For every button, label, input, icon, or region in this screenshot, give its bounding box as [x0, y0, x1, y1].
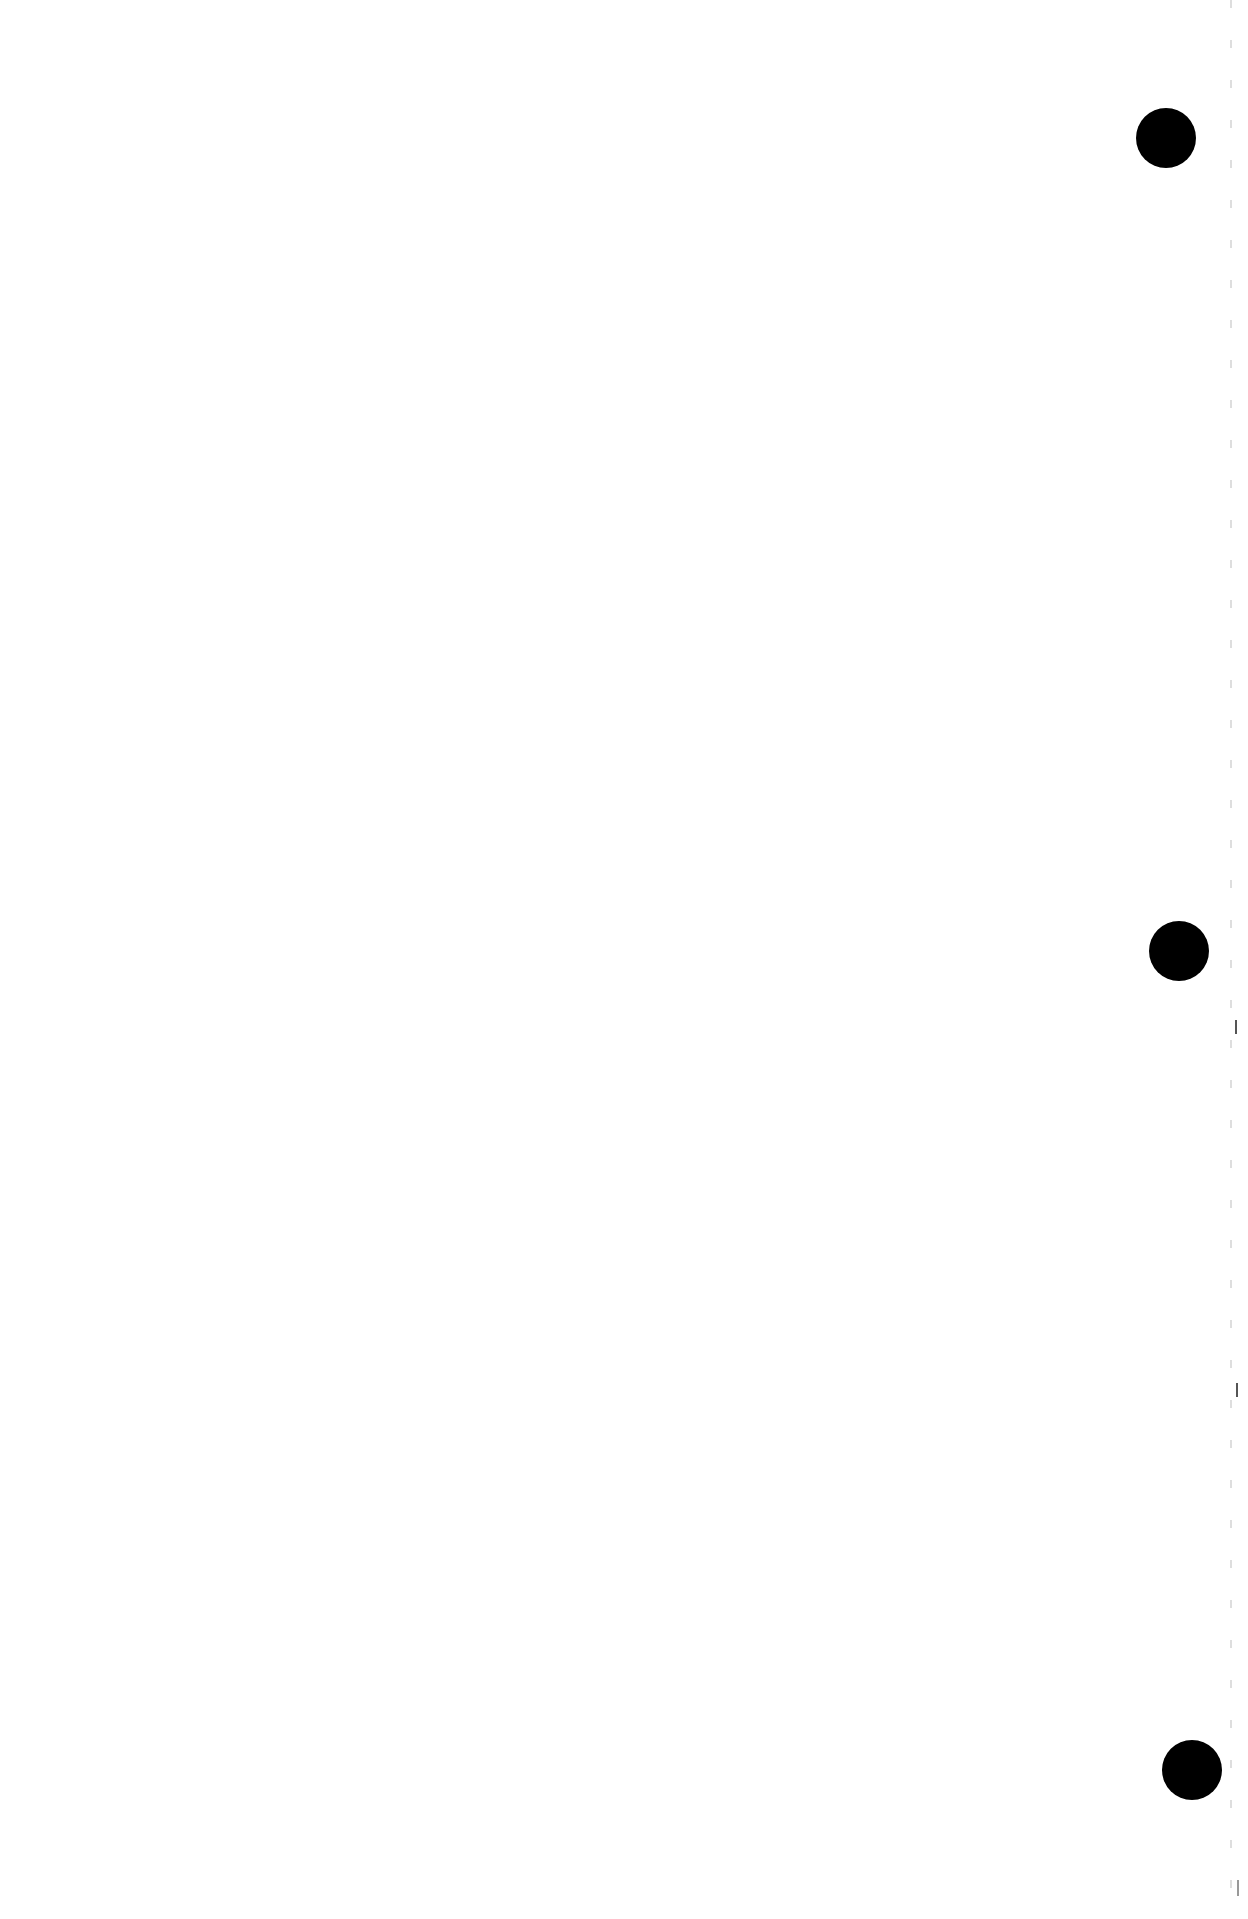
blank-document-page — [0, 0, 1248, 1919]
binder-punch-hole — [1162, 1740, 1222, 1800]
binder-punch-hole — [1149, 921, 1209, 981]
binder-punch-hole — [1136, 108, 1196, 168]
page-edge-mark — [1237, 1880, 1239, 1896]
page-edge-mark — [1235, 1020, 1237, 1034]
page-edge-mark — [1236, 1383, 1238, 1397]
page-edge-line — [1230, 0, 1232, 1919]
